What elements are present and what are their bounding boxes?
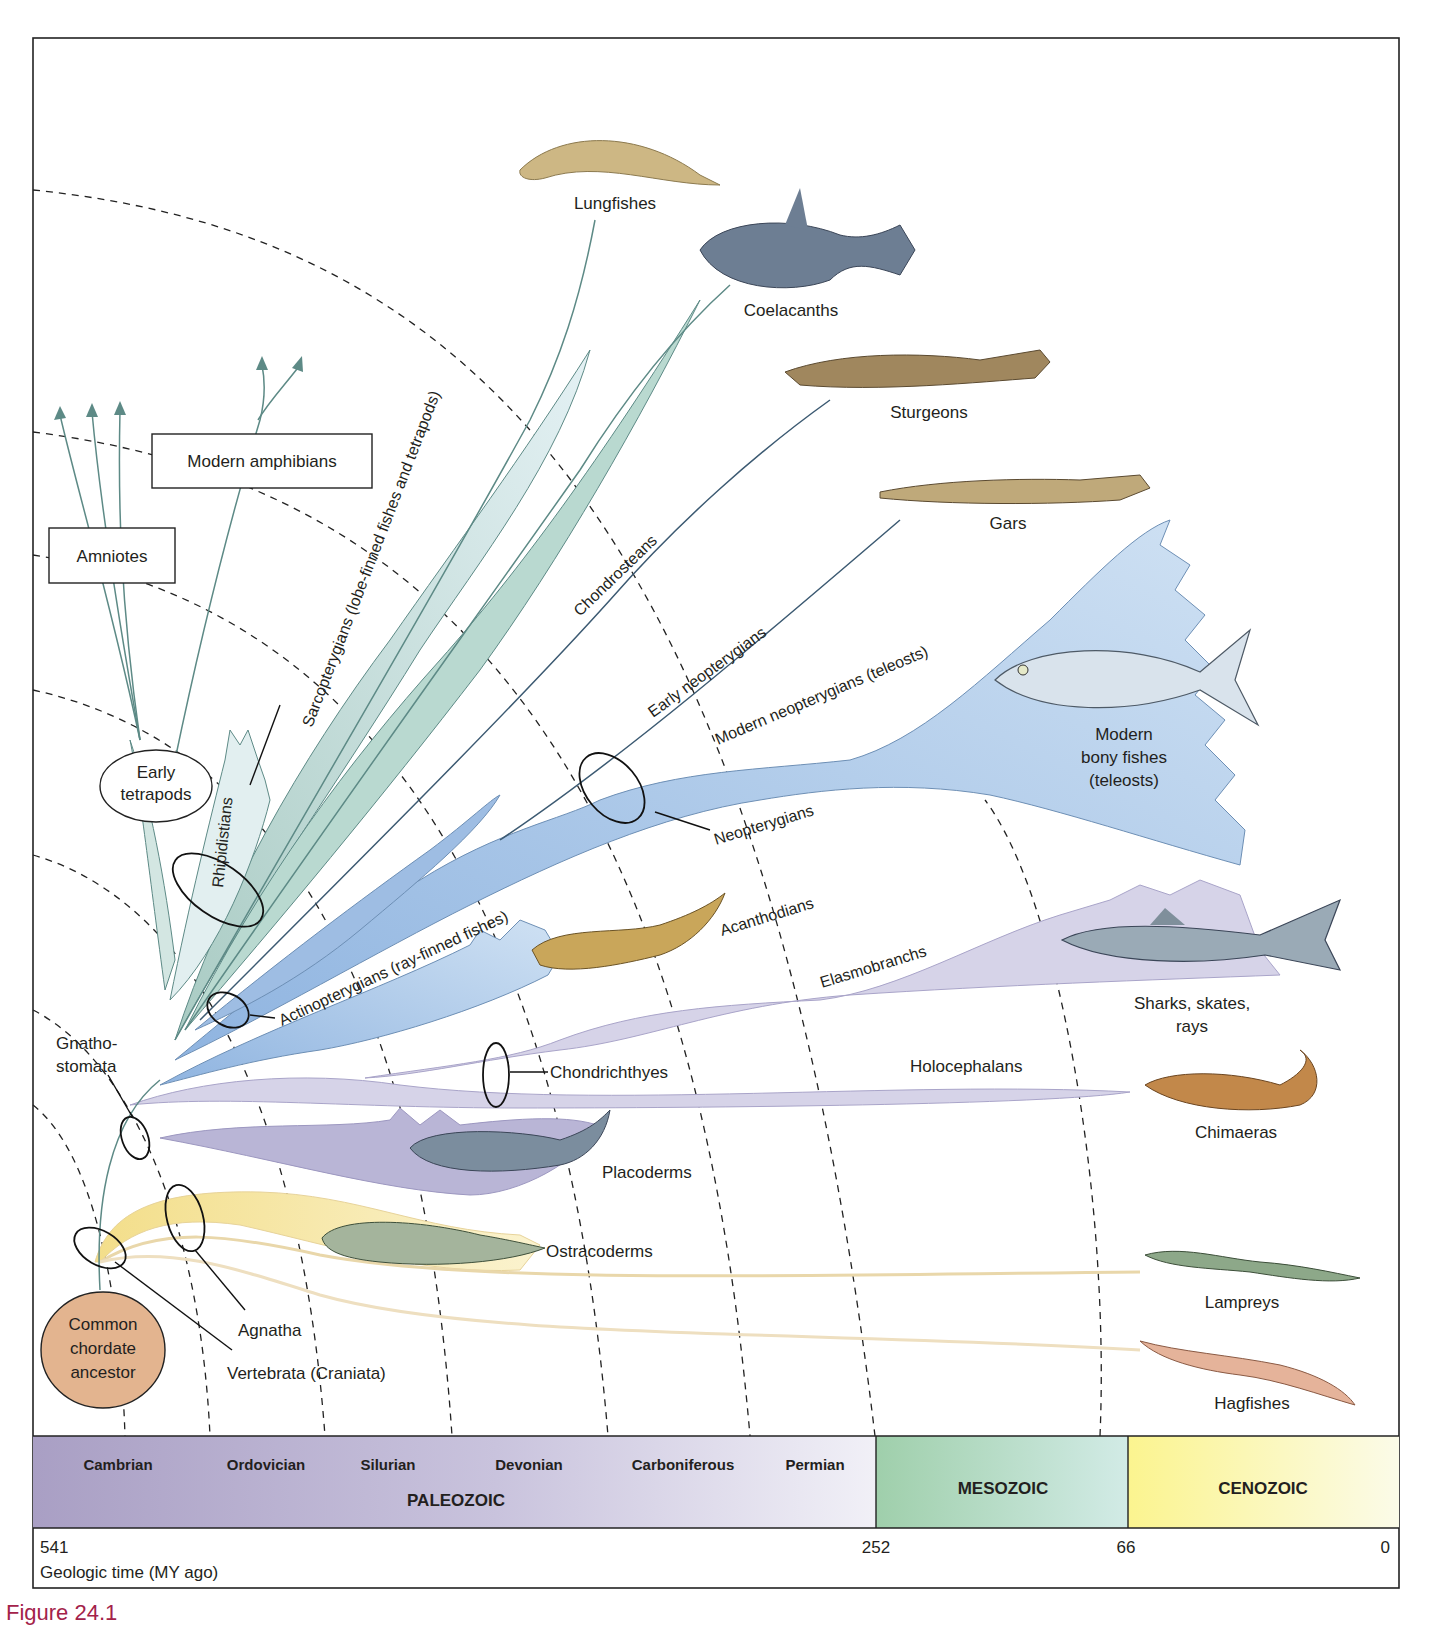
early-tetrapods-label-line2: tetrapods [121,785,192,804]
lamprey-icon [1145,1251,1360,1281]
era-mesozoic: MESOZOIC [958,1479,1049,1498]
label-chimaeras: Chimaeras [1195,1123,1277,1142]
tick-541: 541 [40,1538,68,1557]
amniotes-label: Amniotes [77,547,148,566]
label-modern-neopterygians: Modern neopterygians (teleosts) [713,642,931,747]
geologic-timeline: Cambrian Ordovician Silurian Devonian Ca… [33,1436,1399,1582]
label-modern-bony-3: (teleosts) [1089,771,1159,790]
label-hagfishes: Hagfishes [1214,1394,1290,1413]
period-permian: Permian [785,1456,844,1473]
label-lungfishes: Lungfishes [574,194,656,213]
label-chondrichthyes: Chondrichthyes [550,1063,668,1082]
label-modern-bony-1: Modern [1095,725,1153,744]
period-carboniferous: Carboniferous [632,1456,735,1473]
label-gars: Gars [990,514,1027,533]
paleozoic-band [33,1436,876,1528]
era-cenozoic: CENOZOIC [1218,1479,1308,1498]
lungfish-icon [520,141,720,185]
axis-label: Geologic time (MY ago) [40,1563,218,1582]
ancestor-label-line1: Common [69,1315,138,1334]
label-acanthodians: Acanthodians [718,894,816,939]
acanthodian-icon [532,893,725,969]
label-placoderms: Placoderms [602,1163,692,1182]
tick-252: 252 [862,1538,890,1557]
modern-amphibians-label: Modern amphibians [187,452,336,471]
period-devonian: Devonian [495,1456,563,1473]
era-paleozoic: PALEOZOIC [407,1491,505,1510]
tick-0: 0 [1381,1538,1390,1557]
label-chondrosteans: Chondrosteans [570,532,660,620]
label-vertebrata: Vertebrata (Craniata) [227,1364,386,1383]
figure-caption: Figure 24.1 [6,1600,117,1626]
label-holocephalans: Holocephalans [910,1057,1022,1076]
gar-icon [880,475,1150,504]
coelacanth-icon [700,188,915,288]
period-cambrian: Cambrian [83,1456,152,1473]
period-silurian: Silurian [360,1456,415,1473]
label-gnathostomata-1: Gnatho- [56,1034,117,1053]
label-agnatha: Agnatha [238,1321,302,1340]
label-sharks-2: rays [1176,1017,1208,1036]
label-neopterygians: Neopterygians [712,801,816,847]
label-sturgeons: Sturgeons [890,403,968,422]
ancestor-label-line3: ancestor [70,1363,136,1382]
ancestor-label-line2: chordate [70,1339,136,1358]
label-sharks-1: Sharks, skates, [1134,994,1250,1013]
chimaera-icon [1145,1050,1317,1110]
label-lampreys: Lampreys [1205,1293,1280,1312]
label-gnathostomata-2: stomata [56,1057,117,1076]
label-early-neopterygians: Early neopterygians [645,624,769,721]
label-modern-bony-2: bony fishes [1081,748,1167,767]
sturgeon-icon [785,350,1050,387]
tick-66: 66 [1117,1538,1136,1557]
early-tetrapods-label-line1: Early [137,763,176,782]
label-coelacanths: Coelacanths [744,301,839,320]
label-ostracoderms: Ostracoderms [546,1242,653,1261]
period-ordovician: Ordovician [227,1456,305,1473]
